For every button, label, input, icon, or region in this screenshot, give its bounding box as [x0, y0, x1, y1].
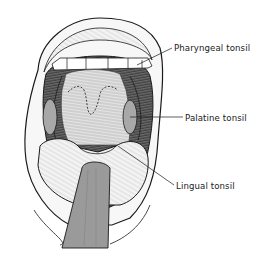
palatine-tonsil-label: Palatine tonsil	[185, 113, 247, 123]
lingual-tonsil-label: Lingual tonsil	[176, 181, 235, 191]
upper-teeth	[52, 57, 152, 70]
pharyngeal-tonsil-label: Pharyngeal tonsil	[174, 43, 250, 53]
left-palatine-tonsil	[43, 99, 57, 135]
mouth-illustration	[0, 0, 267, 268]
